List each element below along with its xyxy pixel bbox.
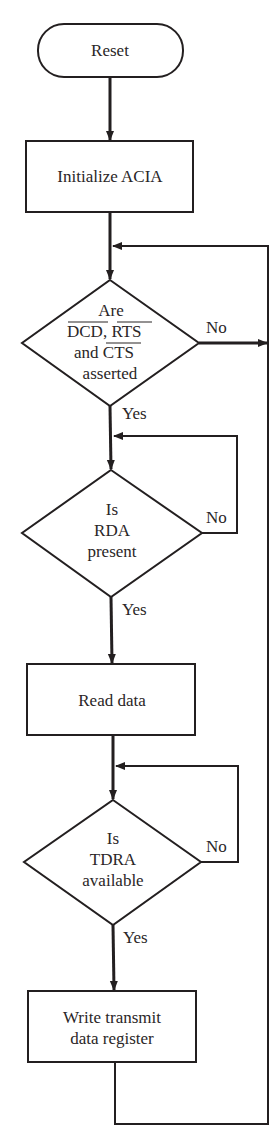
- decision1-no-label: No: [206, 318, 227, 337]
- decision1-line1: Are: [98, 301, 123, 320]
- arrow-decision3-yes: [113, 925, 114, 990]
- flowchart: Reset Initialize ACIA Are DCD, RTS and C…: [0, 0, 275, 1134]
- arrow-decision2-yes: [111, 597, 112, 663]
- write-line1: Write transmit: [63, 1008, 161, 1027]
- write-line2: data register: [70, 1029, 154, 1048]
- reset-terminator: Reset: [38, 24, 183, 77]
- decision-rda-present: Is RDA present: [22, 470, 202, 597]
- decision-tdra-available: Is TDRA available: [24, 800, 201, 925]
- decision1-yes-label: Yes: [122, 404, 147, 423]
- arrow-decision1-yes: [110, 406, 111, 469]
- decision-signals-asserted: Are DCD, RTS and CTS asserted: [22, 280, 199, 406]
- decision3-line1: Is: [107, 829, 119, 848]
- decision1-line3: and CTS: [74, 343, 134, 362]
- decision2-line3: present: [87, 542, 136, 561]
- decision3-yes-label: Yes: [123, 928, 148, 947]
- decision3-line2: TDRA: [90, 850, 137, 869]
- initialize-acia-label: Initialize ACIA: [57, 167, 163, 186]
- decision1-line2: DCD, RTS: [67, 322, 142, 341]
- decision2-line2: RDA: [94, 521, 131, 540]
- read-data-label: Read data: [78, 691, 146, 710]
- decision2-yes-label: Yes: [122, 600, 147, 619]
- decision3-no-label: No: [206, 837, 227, 856]
- decision2-line1: Is: [106, 500, 118, 519]
- reset-label: Reset: [91, 41, 129, 60]
- write-transmit-box: Write transmit data register: [28, 991, 196, 1062]
- read-data-box: Read data: [27, 664, 195, 735]
- decision3-line3: available: [82, 871, 143, 890]
- decision2-no-label: No: [206, 508, 227, 527]
- decision1-line4: asserted: [83, 364, 138, 383]
- initialize-acia-box: Initialize ACIA: [26, 141, 193, 212]
